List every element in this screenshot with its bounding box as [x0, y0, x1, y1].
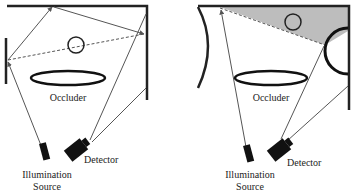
left-source-label-1: Illumination [22, 169, 71, 180]
right-ray-wall-to-detector [287, 86, 348, 141]
ray-wall-to-ceiling [8, 7, 52, 60]
left-detector-label: Detector [84, 154, 119, 165]
ray-right-low-to-detector [92, 88, 146, 142]
ray-ceiling-to-right [54, 7, 144, 34]
left-panel: Occluder Illumination Source Detector [6, 6, 147, 192]
right-source-label-1: Illumination [225, 169, 274, 180]
left-hidden-object [68, 37, 84, 53]
right-source-label-2: Source [236, 181, 264, 192]
diagram-canvas: Occluder Illumination Source Detector Oc… [0, 0, 355, 196]
right-occluder [235, 71, 307, 85]
right-illumination-source [243, 144, 254, 162]
left-occluder-label: Occluder [50, 92, 87, 103]
ray-right-to-detector [90, 14, 146, 140]
right-occluder-label: Occluder [253, 92, 290, 103]
right-ray-source-to-corner [221, 10, 246, 147]
left-illumination-source [39, 142, 50, 160]
right-detector-label: Detector [287, 157, 322, 168]
left-occluder [31, 71, 105, 85]
right-curved-wall [198, 7, 208, 88]
ray-hidden-dashed [8, 34, 144, 60]
left-source-label-2: Source [33, 181, 61, 192]
right-panel: Occluder Illumination Source Detector [198, 6, 349, 192]
